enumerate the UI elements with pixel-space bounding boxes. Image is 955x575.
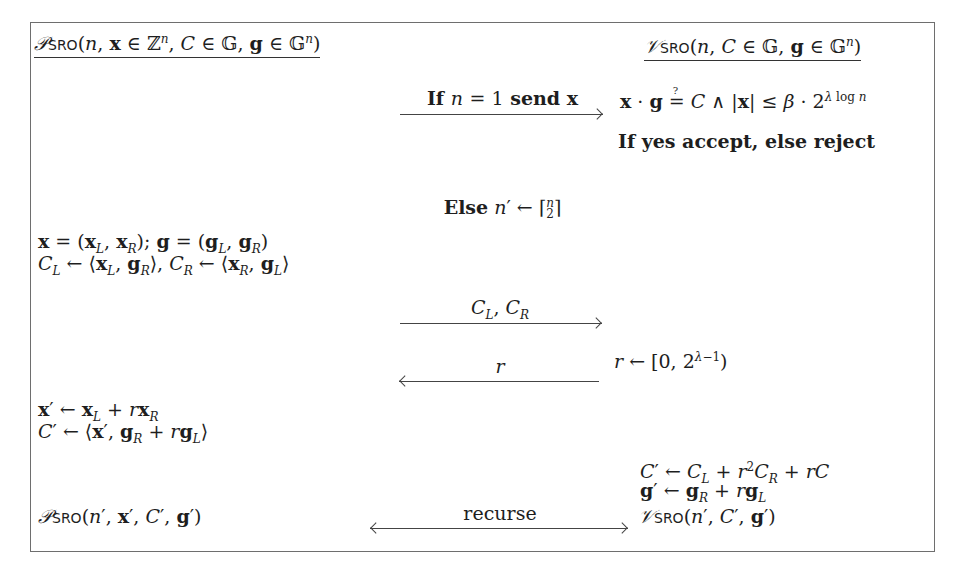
message-send-x-label: If n = 1 send x [400,87,605,109]
arrow-left-icon [399,381,599,382]
verifier-decision: If yes accept, else reject [618,130,875,152]
prover-header: 𝒫SRO(n, x ∈ ℤn, C ∈ 𝔾, g ∈ 𝔾n) [34,28,320,58]
verifier-header: 𝒱SRO(n, C ∈ 𝔾, g ∈ 𝔾n) [644,31,861,61]
prover-fold-c: C′ ← ⟨x′, gR + rgL⟩ [38,420,208,450]
verifier-check: x · g =? C ∧ |x| ≤ β · 2λ log n [620,86,866,112]
message-cl-cr-label: CL, CR [400,296,600,322]
verifier-challenge: r ← [0, 2λ−1) [614,346,728,372]
prover-recurse-call: 𝒫SRO(n′, x′, C′, g′) [38,505,201,529]
arrow-right-icon [400,114,603,115]
verifier-recurse-call: 𝒱SRO(n′, C′, g′) [638,505,776,529]
arrow-bidirectional-icon [370,528,628,529]
message-recurse-label: recurse [370,502,630,524]
arrow-right-icon [400,323,602,324]
message-else-label: Else n′ ← ⌈n2⌉ [400,196,605,220]
prover-cross-terms: CL ← ⟨xL, gR⟩, CR ← ⟨xR, gL⟩ [38,252,289,282]
message-r-label: r [400,355,600,377]
